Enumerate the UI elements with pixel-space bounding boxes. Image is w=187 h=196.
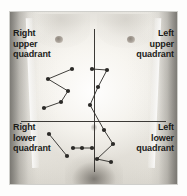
right-nipple (55, 36, 63, 43)
label-rlq-line2: lower (13, 133, 51, 144)
midline-axis (94, 29, 95, 172)
label-right-lower-quadrant: Right lower quadrant (13, 122, 51, 154)
label-luq-line3: quadrant (136, 49, 174, 60)
label-left-upper-quadrant: Left upper quadrant (136, 28, 174, 60)
figure-frame: Right upper quadrant Left upper quadrant… (9, 11, 178, 185)
left-nipple (127, 36, 135, 43)
label-llq-line3: quadrant (136, 143, 174, 154)
label-rlq-line3: quadrant (13, 143, 51, 154)
label-left-lower-quadrant: Left lower quadrant (136, 122, 174, 154)
label-ruq-line3: quadrant (13, 49, 51, 60)
abdominal-quadrant-diagram: Right upper quadrant Left upper quadrant… (0, 0, 187, 196)
label-luq-line2: upper (136, 39, 174, 50)
label-rlq-line1: Right (13, 122, 51, 133)
label-ruq-line1: Right (13, 28, 51, 39)
label-right-upper-quadrant: Right upper quadrant (13, 28, 51, 60)
label-ruq-line2: upper (13, 39, 51, 50)
label-llq-line1: Left (136, 122, 174, 133)
label-luq-line1: Left (136, 28, 174, 39)
label-llq-line2: lower (136, 133, 174, 144)
